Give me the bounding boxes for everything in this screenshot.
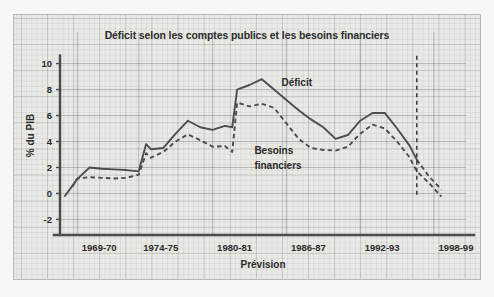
y-axis-title: % du PIB <box>25 114 36 157</box>
y-tick-label: 10 <box>41 58 52 69</box>
figure-container: Déficit selon les comptes publics et les… <box>0 0 494 297</box>
y-tick-label: 8 <box>47 84 52 95</box>
x-tick-label: 1980-81 <box>217 242 253 253</box>
x-tick-label: 1974-75 <box>143 242 179 253</box>
y-tick-label: 2 <box>47 162 52 173</box>
x-tick-label: 1969-70 <box>82 242 117 253</box>
data-series-group <box>65 79 441 197</box>
x-tick-label: 1998-99 <box>439 242 474 253</box>
chart-panel: Déficit selon les comptes publics et les… <box>13 14 481 280</box>
gridlines <box>60 32 466 235</box>
y-tick-label: 0 <box>47 188 52 199</box>
series-annotation-label: Déficit <box>281 77 312 88</box>
series-annotation-label: Besoins <box>254 145 293 156</box>
y-tick-label: -2 <box>44 214 52 225</box>
x-axis-tick-labels: 1969-701974-751980-811986-871992-931998-… <box>82 242 474 253</box>
x-tick-label: 1992-93 <box>365 242 400 253</box>
series-annotation-label: financiers <box>254 160 302 171</box>
x-axis-title: Prévision <box>240 259 285 270</box>
y-axis-tick-labels: 1086420-2 <box>41 58 52 225</box>
chart-plot-area: 1086420-2 1969-701974-751980-811986-8719… <box>14 15 481 280</box>
y-tick-label: 4 <box>47 136 53 147</box>
y-tick-label: 6 <box>47 110 52 121</box>
series-annotations: DéficitBesoinsfinanciers <box>254 77 312 172</box>
x-tick-label: 1986-87 <box>291 242 326 253</box>
